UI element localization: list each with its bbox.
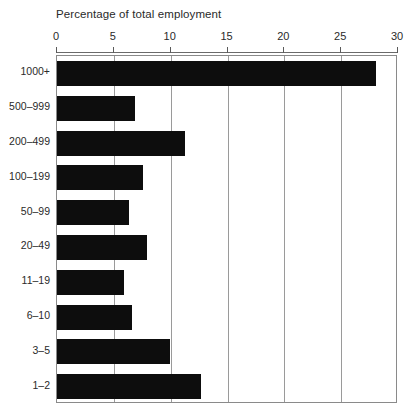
- x-tick-mark: [56, 47, 57, 53]
- y-axis-tick-label: 6–10: [0, 309, 50, 321]
- bar: [57, 131, 185, 156]
- x-tick-label: 30: [391, 30, 403, 42]
- bar: [57, 339, 170, 364]
- x-tick-label: 20: [277, 30, 289, 42]
- bar: [57, 374, 201, 399]
- x-tick-label: 5: [110, 30, 116, 42]
- y-axis-tick-label: 50–99: [0, 205, 50, 217]
- x-tick-mark: [113, 47, 114, 53]
- x-tick-mark: [340, 47, 341, 53]
- y-axis-tick-label: 1–2: [0, 379, 50, 391]
- plot-area: [56, 55, 397, 403]
- bar-series: [57, 56, 398, 404]
- bar: [57, 165, 143, 190]
- y-axis-tick-label: 11–19: [0, 274, 50, 286]
- y-axis-tick-label: 20–49: [0, 239, 50, 251]
- x-tick-label: 10: [164, 30, 176, 42]
- y-axis-tick-label: 1000+: [0, 65, 50, 77]
- chart-figure: Percentage of total employment 051015202…: [0, 0, 409, 419]
- y-axis-tick-label: 500–999: [0, 100, 50, 112]
- x-tick-label: 25: [334, 30, 346, 42]
- x-axis: 051015202530: [56, 52, 397, 53]
- chart-title: Percentage of total employment: [56, 8, 221, 20]
- bar: [57, 270, 124, 295]
- x-tick-mark: [397, 47, 398, 53]
- bar: [57, 200, 129, 225]
- y-axis-tick-label: 3–5: [0, 344, 50, 356]
- x-tick-mark: [283, 47, 284, 53]
- bar: [57, 96, 135, 121]
- x-tick-mark: [170, 47, 171, 53]
- bar: [57, 61, 376, 86]
- bar: [57, 305, 132, 330]
- y-axis-tick-label: 200–499: [0, 135, 50, 147]
- x-tick-mark: [227, 47, 228, 53]
- y-axis-tick-label: 100–199: [0, 170, 50, 182]
- y-axis-labels: 1000+500–999200–499100–19950–9920–4911–1…: [0, 55, 50, 403]
- x-tick-label: 15: [220, 30, 232, 42]
- x-tick-label: 0: [53, 30, 59, 42]
- bar: [57, 235, 147, 260]
